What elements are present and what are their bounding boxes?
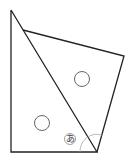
triangle-outline: [11, 10, 97, 152]
blank-circle-lower: [35, 116, 50, 131]
angle-label: あ: [66, 134, 75, 144]
blank-circle-upper: [75, 72, 90, 87]
geometry-diagram: あ: [0, 0, 135, 163]
